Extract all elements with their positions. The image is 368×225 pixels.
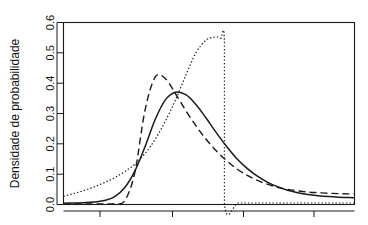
density-curve-solid	[64, 92, 355, 203]
x-tick-marks	[100, 211, 314, 217]
density-plot: 0.6 0.5 0.4 0.3 0.2 0.1 0.0 Densidade de…	[0, 0, 368, 225]
y-tick-label-0.5: 0.5	[44, 45, 56, 60]
y-tick-marks	[57, 23, 63, 205]
y-tick-label-0.2: 0.2	[44, 136, 56, 151]
y-tick-label-0.4: 0.4	[44, 76, 56, 91]
y-tick-label-0.1: 0.1	[44, 167, 56, 182]
y-tick-label-0.6: 0.6	[44, 15, 56, 30]
density-curve-dashed	[64, 75, 355, 204]
y-axis-title: Densidade de probabilidade	[8, 38, 22, 188]
chart-figure: 0.6 0.5 0.4 0.3 0.2 0.1 0.0 Densidade de…	[0, 0, 368, 225]
y-tick-label-0.3: 0.3	[44, 106, 56, 121]
plot-frame	[64, 23, 355, 205]
data-curves	[64, 30, 355, 215]
y-tick-label-0.0: 0.0	[44, 197, 56, 212]
